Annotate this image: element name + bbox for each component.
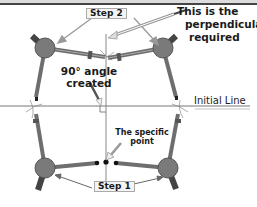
step2-arrows [58, 18, 158, 45]
perpendicular-label-line1: This is the [177, 6, 238, 17]
initial-line-label: Initial Line [194, 96, 246, 107]
point-label-line2: point [114, 138, 170, 146]
specific-point-markers [95, 159, 119, 165]
right-angle-marker [100, 106, 106, 112]
arc-right [179, 100, 183, 118]
perpendicular-label-line2: perpendicular [185, 19, 257, 30]
diagram-canvas: Step 2 This is the perpendicular require… [0, 0, 257, 207]
step1-label: Step 1 [94, 181, 135, 192]
angle-label-line1: 90° angle [56, 66, 122, 77]
step2-label: Step 2 [86, 8, 127, 19]
angle-label-line2: created [56, 78, 122, 89]
perpendicular-label-line3: required [189, 32, 240, 43]
compass-bottom-right [116, 114, 181, 189]
